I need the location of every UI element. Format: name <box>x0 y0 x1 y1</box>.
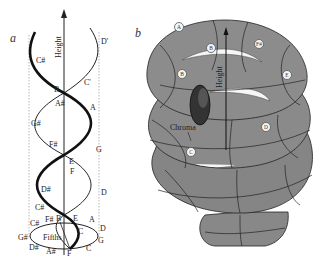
svg-text:D#: D# <box>29 243 39 252</box>
svg-text:D#: D# <box>41 185 51 194</box>
svg-text:C: C <box>86 244 91 253</box>
fifths-label: Fifths <box>43 233 62 242</box>
helix-tube-tail <box>200 212 288 246</box>
svg-text:C#: C# <box>36 56 45 65</box>
tube-cross-section-highlight <box>198 88 208 108</box>
svg-text:D': D' <box>101 37 109 46</box>
svg-text:G: G <box>98 236 104 245</box>
height-axis-label: Height <box>54 35 63 58</box>
panel-b-label: b <box>135 26 141 40</box>
svg-text:D: D <box>101 188 107 197</box>
svg-text:A: A <box>90 103 96 112</box>
svg-text:F#: F# <box>45 215 53 224</box>
helix-note-labels: D' C# C' B A# A G# G F# E F D# D C# <box>31 37 109 212</box>
svg-text:C#: C# <box>30 219 39 228</box>
svg-text:E: E <box>69 157 74 166</box>
chroma-label: Chroma <box>170 123 196 132</box>
svg-text:D: D <box>264 124 268 130</box>
svg-text:E: E <box>73 214 78 223</box>
svg-text:B: B <box>180 71 184 77</box>
svg-text:A: A <box>89 215 95 224</box>
svg-text:G: G <box>96 145 102 154</box>
svg-text:B: B <box>54 85 59 94</box>
svg-text:A#: A# <box>46 247 56 256</box>
height-axis-b-label: Height <box>215 65 224 88</box>
svg-text:B: B <box>209 45 213 51</box>
svg-text:F: F <box>67 249 72 257</box>
panel-b: b <box>135 20 312 246</box>
svg-text:F#: F# <box>256 41 262 47</box>
svg-text:C: C <box>189 149 193 155</box>
figure-canvas: a Height Fifths D' C# C' B A# A G# G F# … <box>0 0 329 257</box>
svg-text:A: A <box>177 24 181 30</box>
svg-text:C': C' <box>84 78 91 87</box>
svg-text:C: C <box>78 227 83 236</box>
svg-text:F#: F# <box>49 140 57 149</box>
svg-text:B: B <box>56 214 61 223</box>
panel-a-label: a <box>10 31 16 45</box>
panel-a: a Height Fifths D' C# C' B A# A G# G F# … <box>10 9 109 257</box>
svg-text:F: F <box>70 167 75 176</box>
svg-text:D: D <box>100 224 106 233</box>
height-axis-arrow-icon <box>61 9 67 18</box>
svg-text:A#: A# <box>55 99 65 108</box>
pitch-helix-figure: a Height Fifths D' C# C' B A# A G# G F# … <box>0 0 329 257</box>
svg-text:G#: G# <box>31 119 41 128</box>
fifths-note-labels: C# F# B E A D G C F A# D# G# C <box>18 214 106 257</box>
svg-text:C#: C# <box>35 203 44 212</box>
svg-text:G#: G# <box>18 233 28 242</box>
